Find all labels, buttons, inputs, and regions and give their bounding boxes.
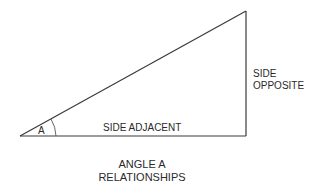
side-opposite-label-line1: SIDE <box>253 68 277 79</box>
side-adjacent-label: SIDE ADJACENT <box>103 122 181 133</box>
right-triangle <box>20 11 246 136</box>
angle-a-label: A <box>38 125 45 136</box>
side-opposite-label-line2: OPPOSITE <box>253 80 304 91</box>
angle-a-arc <box>51 119 56 136</box>
hypotenuse <box>20 11 246 136</box>
triangle-diagram: A SIDE ADJACENT SIDE OPPOSITE ANGLE A RE… <box>0 0 325 191</box>
title-line1: ANGLE A <box>118 158 166 170</box>
title-line2: RELATIONSHIPS <box>98 171 185 183</box>
